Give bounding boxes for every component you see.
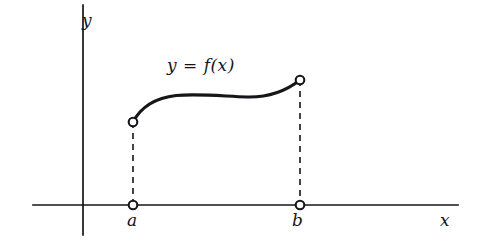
- x-axis-label: x: [440, 212, 450, 229]
- y-axis-label: y: [82, 12, 92, 29]
- x-tick-label-b: b: [292, 212, 303, 229]
- function-graph-figure: y x a b y = f(x): [0, 0, 496, 248]
- x-tick-label-a: a: [127, 212, 137, 229]
- x-axis-point-b-marker: [296, 201, 305, 210]
- function-curve: [133, 80, 300, 122]
- x-axis-point-a-marker: [129, 201, 138, 210]
- curve-right-endpoint-marker: [296, 76, 305, 85]
- function-curve-label: y = f(x): [167, 57, 235, 74]
- graph-canvas: [0, 0, 496, 248]
- curve-left-endpoint-marker: [129, 118, 138, 127]
